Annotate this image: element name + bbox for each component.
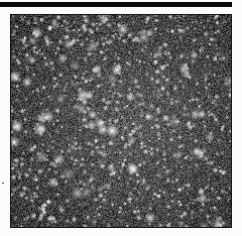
star-field-image — [11, 15, 231, 227]
margin-marker — [2, 182, 4, 184]
star-field-image-frame — [10, 14, 232, 228]
top-rule-bar — [0, 2, 232, 7]
